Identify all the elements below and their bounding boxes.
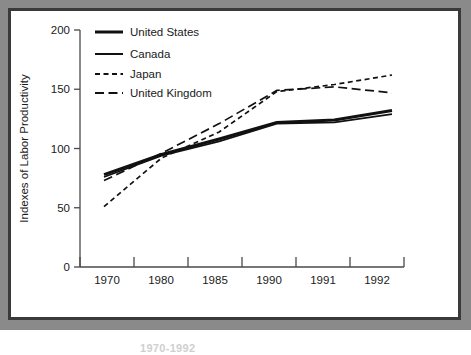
x-tick-label-1980: 1980 [148, 274, 174, 286]
caption-text: 1970-1992 [140, 342, 195, 354]
x-tick-label-1985: 1985 [202, 274, 228, 286]
legend-label-united-states: United States [130, 26, 199, 38]
x-tick-label-1991: 1991 [310, 274, 336, 286]
y-tick-label-150: 150 [51, 83, 70, 95]
figure-frame: 200 150 100 50 0 Indexes of Labor Produc… [0, 0, 471, 330]
line-chart: 200 150 100 50 0 Indexes of Labor Produc… [0, 0, 463, 322]
y-tick-label-50: 50 [57, 202, 70, 214]
legend-label-canada: Canada [130, 48, 171, 60]
chart-legend: United States Canada Japan United Kingdo… [95, 26, 212, 99]
y-tick-label-200: 200 [51, 24, 70, 36]
legend-label-japan: Japan [130, 68, 161, 80]
legend-label-united-kingdom: United Kingdom [130, 87, 212, 99]
x-tick-label-1990: 1990 [256, 274, 282, 286]
x-tick-label-1992: 1992 [364, 274, 390, 286]
series-line-canada [104, 114, 392, 177]
y-tick-label-0: 0 [64, 261, 70, 273]
x-tick-label-1970: 1970 [94, 274, 120, 286]
x-axis-ticks [80, 257, 404, 267]
y-axis-title: Indexes of Labor Productivity [18, 74, 30, 223]
series-line-united-kingdom [104, 87, 392, 181]
y-tick-label-100: 100 [51, 143, 70, 155]
caption-strip: 1970-1992 [0, 330, 471, 355]
y-axis-ticks [74, 30, 80, 267]
